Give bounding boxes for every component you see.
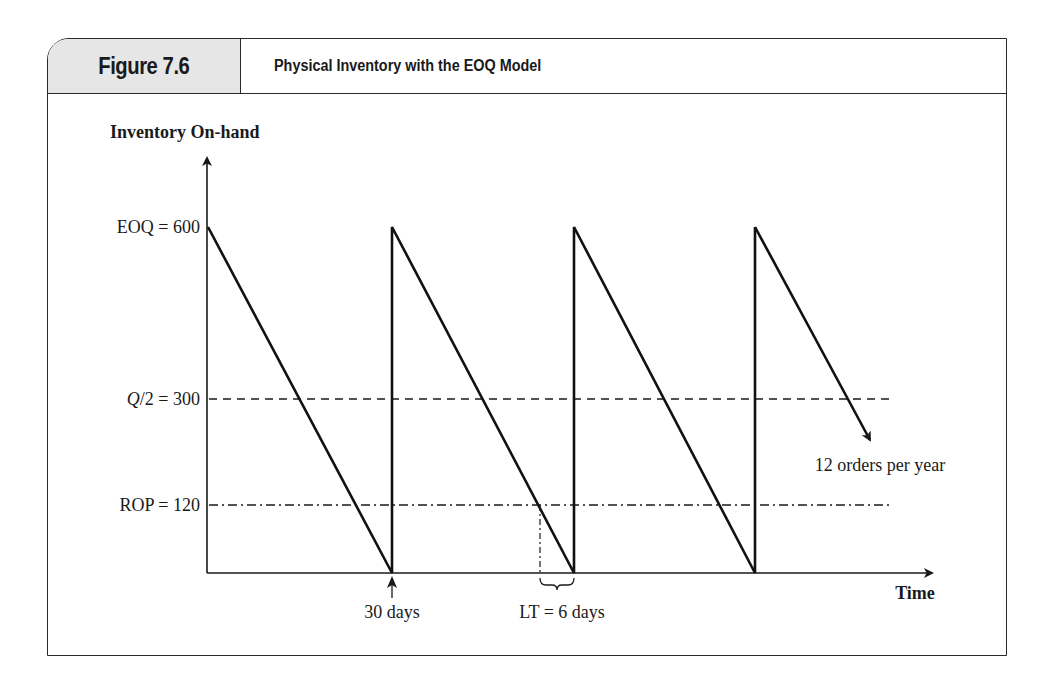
- x-axis-label: Time: [895, 583, 935, 603]
- q-half-italic: Q: [127, 389, 140, 409]
- lead-time-label: LT = 6 days: [519, 602, 605, 622]
- lead-time-brace-icon: [540, 578, 574, 590]
- inventory-chart: Inventory On-hand EOQ = 600 Q/2 = 300 RO…: [0, 0, 1056, 685]
- eoq-label: EOQ = 600: [117, 217, 200, 237]
- q-half-label: Q/2 = 300: [127, 389, 200, 409]
- inventory-sawtooth-line: [208, 227, 755, 573]
- q-half-rest: /2 = 300: [140, 389, 200, 409]
- rop-label: ROP = 120: [120, 495, 201, 515]
- cycle-arrow-icon: [387, 576, 397, 598]
- orders-label: 12 orders per year: [815, 455, 945, 475]
- y-axis-label: Inventory On-hand: [110, 122, 260, 142]
- orders-arrow: [755, 227, 870, 440]
- cycle-label: 30 days: [364, 602, 420, 622]
